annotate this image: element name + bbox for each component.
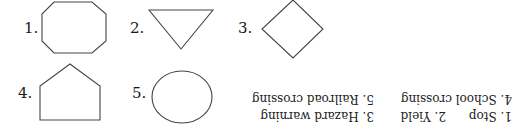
answer-school-crossing: 4. School crossing — [401, 91, 512, 107]
shape-4-number: 4. — [18, 86, 32, 101]
pentagon-shape — [38, 62, 102, 122]
answer-hazard-warning: 3. Hazard warning — [260, 108, 374, 124]
answer-yield: 2. Yield — [401, 108, 446, 124]
diamond-shape — [260, 0, 324, 60]
inverted-triangle-shape — [148, 8, 214, 50]
answer-stop: 1. Stop — [469, 108, 512, 124]
shape-5-number: 5. — [132, 86, 146, 101]
shape-2-number: 2. — [130, 21, 144, 36]
shape-1-number: 1. — [24, 21, 38, 36]
circle-shape — [150, 70, 214, 126]
answer-railroad-crossing: 5. Railroad crossing — [252, 91, 374, 107]
answer-row-2: 4. School crossing 5. Railroad crossing — [262, 90, 512, 107]
octagon-shape — [40, 0, 108, 56]
answer-row-1: 1. Stop 2. Yield 3. Hazard warning — [262, 107, 512, 124]
shape-3-number: 3. — [238, 21, 252, 36]
answer-key-upside-down: 1. Stop 2. Yield 3. Hazard warning 4. Sc… — [262, 88, 512, 124]
